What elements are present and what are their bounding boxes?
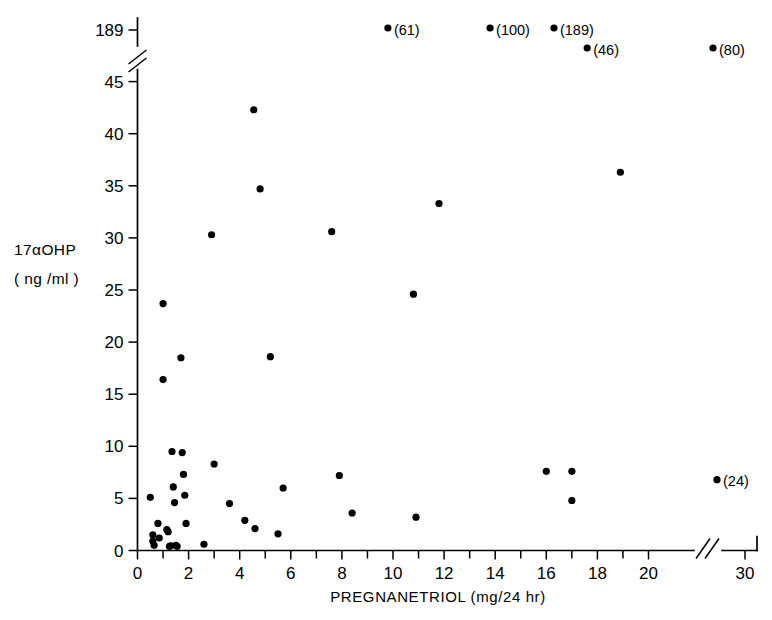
data-point: [241, 517, 248, 524]
data-point: [211, 460, 218, 467]
data-point: [328, 228, 335, 235]
tick-labels: 0510152025303540451890246810121416182030: [95, 21, 754, 583]
data-point: [280, 484, 287, 491]
data-point: [168, 448, 175, 455]
data-point: [149, 531, 156, 538]
data-point: [412, 514, 419, 521]
offscale-point-label: (46): [593, 42, 619, 58]
scatter-plot-figure: 0510152025303540451890246810121416182030…: [0, 0, 772, 620]
y-axis-label-line2: ( ng /ml ): [14, 270, 79, 287]
y-tick-label: 5: [114, 489, 123, 508]
data-point: [349, 509, 356, 516]
x-tick-label: 0: [133, 564, 142, 583]
x-tick-label: 30: [736, 564, 755, 583]
data-point: [251, 525, 258, 532]
data-point: [165, 528, 172, 535]
x-tick-label: 14: [486, 564, 505, 583]
x-tick-label: 20: [639, 564, 658, 583]
data-point: [171, 499, 178, 506]
data-point: [147, 494, 154, 501]
data-point: [181, 492, 188, 499]
offscale-point-label: (61): [394, 22, 420, 38]
y-tick-label: 25: [105, 281, 124, 300]
offscale-point-label: (100): [496, 22, 530, 38]
y-axis-break-mark: [129, 50, 147, 64]
y-tick-label: 30: [105, 229, 124, 248]
plot-canvas: 0510152025303540451890246810121416182030…: [0, 0, 772, 620]
offscale-data-point: [384, 24, 391, 31]
data-point: [159, 300, 166, 307]
offscale-point-label: (189): [560, 22, 594, 38]
x-tick-label: 12: [435, 564, 454, 583]
offscale-data-point-right: [713, 476, 720, 483]
data-point: [156, 534, 163, 541]
data-point: [267, 353, 274, 360]
data-point: [617, 169, 624, 176]
data-point: [179, 449, 186, 456]
data-point: [174, 543, 181, 550]
data-point: [568, 468, 575, 475]
x-tick-label: 10: [384, 564, 403, 583]
offscale-data-point: [709, 44, 716, 51]
data-point: [159, 376, 166, 383]
y-axis-label-line1: 17αOHP: [14, 241, 76, 258]
data-point: [151, 542, 158, 549]
offscale-data-point: [550, 24, 557, 31]
tick-marks: [129, 30, 746, 560]
y-tick-label: 15: [105, 385, 124, 404]
offscale-point-label-right: (24): [723, 473, 749, 489]
data-point: [182, 520, 189, 527]
data-point: [257, 185, 264, 192]
x-tick-label: 2: [184, 564, 193, 583]
data-point: [180, 471, 187, 478]
x-tick-label: 18: [588, 564, 607, 583]
x-tick-label: 16: [537, 564, 556, 583]
data-point: [208, 231, 215, 238]
x-tick-label: 8: [337, 564, 346, 583]
data-point: [250, 106, 257, 113]
x-tick-label: 4: [235, 564, 244, 583]
y-tick-label: 189: [95, 21, 123, 40]
data-point: [568, 497, 575, 504]
y-tick-label: 0: [114, 542, 123, 561]
y-tick-label: 35: [105, 177, 124, 196]
y-tick-label: 10: [105, 437, 124, 456]
data-points: [147, 106, 624, 550]
y-tick-label: 45: [105, 73, 124, 92]
data-point: [170, 483, 177, 490]
data-point: [435, 200, 442, 207]
data-point: [274, 530, 281, 537]
offscale-annotations: (61)(100)(189)(46)(80)(24): [384, 22, 749, 489]
data-point: [177, 354, 184, 361]
data-point: [336, 472, 343, 479]
y-tick-label: 40: [105, 125, 124, 144]
axes: [129, 18, 758, 559]
x-tick-label: 6: [286, 564, 295, 583]
x-axis-label: PREGNANETRIOL (mg/24 hr): [330, 588, 546, 605]
data-point: [200, 541, 207, 548]
offscale-data-point: [486, 24, 493, 31]
data-point: [154, 520, 161, 527]
data-point: [410, 291, 417, 298]
offscale-data-point: [584, 44, 591, 51]
offscale-point-label: (80): [719, 42, 745, 58]
data-point: [226, 500, 233, 507]
data-point: [543, 468, 550, 475]
y-tick-label: 20: [105, 333, 124, 352]
